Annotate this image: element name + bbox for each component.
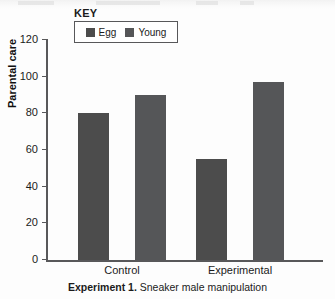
legend-label-young: Young xyxy=(138,27,166,38)
y-axis-tick: 20 xyxy=(42,222,48,223)
plot-area: 020406080100120ControlExperimental xyxy=(46,40,323,262)
y-axis-tick: 40 xyxy=(42,186,48,187)
legend-swatch-young xyxy=(125,28,134,37)
y-axis-tick-label: 120 xyxy=(20,33,38,45)
bar-young-control xyxy=(135,95,166,260)
y-axis-tick: 100 xyxy=(42,76,48,77)
figure-caption: Experiment 1. Sneaker male manipulation xyxy=(0,281,335,293)
x-axis-label-control: Control xyxy=(72,264,172,276)
y-axis-tick-label: 20 xyxy=(26,216,38,228)
bar-egg-experimental xyxy=(196,159,227,260)
y-axis-tick-label: 40 xyxy=(26,180,38,192)
y-axis-tick-label: 60 xyxy=(26,143,38,155)
bar-egg-control xyxy=(78,113,109,260)
y-axis-tick: 120 xyxy=(42,39,48,40)
scan-bleed-artifact xyxy=(0,0,335,9)
y-axis-title: Parental care xyxy=(6,39,18,108)
caption-text: Sneaker male manipulation xyxy=(137,281,267,293)
legend-swatch-egg xyxy=(86,28,95,37)
figure-container: KEY Egg Young Parental care 020406080100… xyxy=(0,0,335,299)
y-axis-tick-label: 80 xyxy=(26,106,38,118)
y-axis-tick-label: 0 xyxy=(32,253,38,265)
x-axis-label-experimental: Experimental xyxy=(190,264,290,276)
y-axis-tick: 80 xyxy=(42,112,48,113)
y-axis-tick: 60 xyxy=(42,149,48,150)
legend-title: KEY xyxy=(74,7,97,19)
legend-item-young: Young xyxy=(125,27,166,38)
caption-experiment-number: Experiment 1. xyxy=(68,281,137,293)
legend-item-egg: Egg xyxy=(86,27,117,38)
bar-young-experimental xyxy=(253,82,284,260)
y-axis-tick-label: 100 xyxy=(20,70,38,82)
y-axis-tick: 0 xyxy=(42,259,48,260)
legend-label-egg: Egg xyxy=(99,27,117,38)
